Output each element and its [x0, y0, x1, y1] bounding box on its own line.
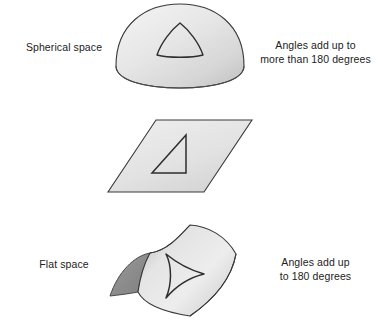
row-spherical-space: Spherical space A: [0, 0, 379, 112]
figure-saddle-surface: [104, 220, 256, 332]
figure-plane-surface: [104, 110, 256, 222]
row-hyperbolic-space: Hyperbolic space: [0, 220, 379, 332]
caption-line-2: more than 180 degrees: [252, 53, 379, 67]
dome-body: [116, 4, 244, 88]
saddle-body: [138, 225, 236, 316]
plane-body: [108, 120, 252, 192]
curvature-diagram: Spherical space A: [0, 0, 379, 335]
figure-dome-surface: [104, 0, 256, 112]
caption-spherical-space: Angles add up to more than 180 degrees: [252, 39, 379, 66]
row-flat-space: Flat space Angles add up to 180 degrees: [0, 110, 379, 222]
caption-line-1: Angles add up to: [252, 39, 379, 53]
